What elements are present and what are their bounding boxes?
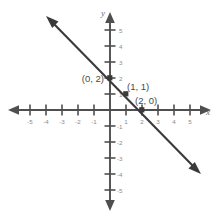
point-marker-2-0 [139,107,144,112]
point-label-1-1: (1, 1) [127,81,149,92]
y-tick-label--4: -4 [117,171,123,178]
x-tick-label--1: -1 [91,118,97,125]
y-tick-label-4: 4 [119,43,123,50]
point-marker-0-2 [107,75,112,80]
coordinate-plane-figure: -5 -4 -3 -2 -1 1 2 3 4 5 x [0,0,219,222]
x-tick-label--5: -5 [27,118,33,125]
graph-canvas: -5 -4 -3 -2 -1 1 2 3 4 5 x [0,0,219,222]
y-tick-label--5: -5 [117,187,123,194]
x-tick-label--3: -3 [59,118,65,125]
x-tick-label--4: -4 [43,118,49,125]
x-tick-label-4: 4 [172,118,176,125]
y-tick-label-3: 3 [119,59,123,66]
y-tick-label-5: 5 [119,27,123,34]
y-tick-label--1: -1 [117,123,123,130]
x-axis-label: x [205,107,210,117]
point-label-2-0: (2, 0) [135,95,157,106]
point-label-0-2: (0, 2) [82,73,104,84]
y-axis-label: y [100,8,105,18]
y-tick-label--2: -2 [117,139,123,146]
y-tick-label-2: 2 [119,75,123,82]
y-tick-label--3: -3 [117,155,123,162]
x-tick-label--2: -2 [75,118,81,125]
x-tick-label-1: 1 [124,118,128,125]
x-tick-label-2: 2 [140,118,144,125]
x-tick-label-3: 3 [156,118,160,125]
x-tick-label-5: 5 [188,118,192,125]
